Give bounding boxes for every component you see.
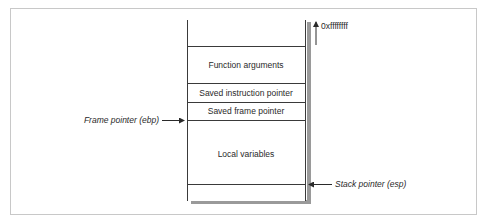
section-saved-frame-pointer: Saved frame pointer — [208, 106, 285, 116]
stack-pointer-label: Stack pointer (esp) — [335, 179, 407, 189]
stack-shadow-right — [307, 22, 311, 204]
top-address-label: 0xffffffff — [321, 21, 348, 31]
section-saved-instruction-pointer: Saved instruction pointer — [199, 88, 293, 98]
section-function-arguments: Function arguments — [208, 60, 283, 70]
frame-pointer-label: Frame pointer (ebp) — [84, 115, 159, 125]
stack-diagram: Function arguments Saved instruction poi… — [0, 0, 485, 224]
section-local-variables: Local variables — [218, 149, 275, 159]
